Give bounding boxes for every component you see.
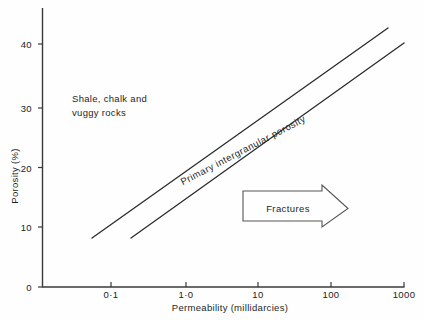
- x-tick-label-1-0: 1·0: [179, 289, 194, 300]
- y-tick-label-0: 0: [6, 282, 32, 293]
- annotation-shale-line-1: Shale, chalk and: [72, 92, 147, 106]
- y-axis-title: Porosity (%): [9, 148, 20, 203]
- x-tick-label-10: 10: [252, 289, 263, 300]
- x-tick-label-0-1: 0·1: [104, 289, 119, 300]
- x-tick-label-1000: 1000: [393, 289, 416, 300]
- primary-porosity-band: [92, 28, 404, 238]
- y-tick-label-40: 40: [6, 39, 32, 50]
- chart-figure: 0 10 20 30 40 0·1 1·0 10 100 1000 Permea…: [0, 0, 425, 321]
- annotation-fractures-label: Fractures: [266, 203, 310, 214]
- band-upper-line: [92, 28, 388, 238]
- y-tick-label-10: 10: [6, 222, 32, 233]
- annotation-shale-line-2: vuggy rocks: [72, 106, 147, 120]
- x-axis-title: Permeability (millidarcies): [172, 302, 288, 313]
- x-tick-label-100: 100: [322, 289, 339, 300]
- annotation-shale-chalk-vuggy: Shale, chalk and vuggy rocks: [72, 92, 147, 119]
- y-tick-label-30: 30: [6, 103, 32, 114]
- x-axis-ticks: [111, 282, 404, 287]
